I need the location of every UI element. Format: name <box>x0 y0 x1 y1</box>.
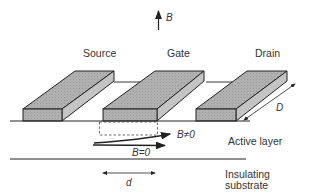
substrate-label-line2: substrate <box>225 179 268 191</box>
gate-electrode <box>103 71 204 121</box>
field-nonzero-label: B≠0 <box>177 129 195 140</box>
depletion-region <box>100 122 158 135</box>
field-label: B <box>166 12 173 23</box>
fet-diagram <box>0 0 309 196</box>
active-layer-label: Active layer <box>228 135 282 147</box>
width-label: D <box>276 102 283 113</box>
drain-electrode <box>196 71 287 121</box>
gap-label: d <box>126 177 132 188</box>
source-label: Source <box>83 47 116 59</box>
drain-label: Drain <box>255 47 280 59</box>
field-zero-label: B=0 <box>132 147 150 158</box>
electron-path-b-zero <box>93 145 165 146</box>
gate-label: Gate <box>167 47 190 59</box>
source-electrode <box>23 71 114 121</box>
